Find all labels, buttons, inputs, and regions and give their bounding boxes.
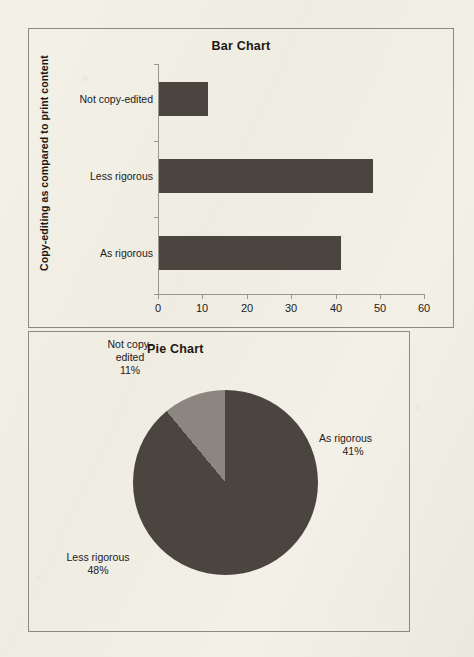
bar-chart-y-axis-title: Copy-editing as compared to print conten…: [38, 55, 50, 271]
pie-chart-graphic: [133, 390, 318, 575]
pie-label-less-rigorous-name: Less rigorous: [66, 551, 129, 563]
bar-chart-plot-area: Not copy-edited Less rigorous As rigorou…: [158, 64, 425, 294]
bar-chart-title: Bar Chart: [29, 39, 453, 53]
y-axis-tick: [154, 217, 158, 218]
y-axis-tick: [154, 141, 158, 142]
y-axis-tick: [154, 64, 158, 65]
x-axis-tick: [158, 294, 159, 299]
pie-chart-panel: Pie Chart Not copy- edited 11% As rigoro…: [28, 331, 410, 632]
x-axis-tick-label: 20: [227, 302, 267, 314]
pie-label-as-rigorous-percent: 41%: [319, 445, 387, 458]
x-axis-tick: [336, 294, 337, 299]
x-axis-tick-label: 60: [404, 302, 444, 314]
pie-label-not-copy-edited-line2: edited: [91, 351, 169, 364]
x-axis-tick: [424, 294, 425, 299]
x-axis-tick-label: 30: [271, 302, 311, 314]
x-axis-tick: [291, 294, 292, 299]
x-axis-tick-label: 0: [138, 302, 178, 314]
pie-label-less-rigorous-percent: 48%: [43, 564, 153, 577]
pie-label-not-copy-edited-percent: 11%: [91, 364, 169, 377]
x-axis-tick-label: 40: [316, 302, 356, 314]
bar-less-rigorous: [159, 159, 373, 193]
bar-category-label-less-rigorous: Less rigorous: [90, 170, 153, 182]
x-axis-tick: [202, 294, 203, 299]
pie-label-as-rigorous: As rigorous 41%: [319, 432, 415, 458]
pie-label-not-copy-edited-line1: Not copy-: [108, 338, 153, 350]
x-axis-tick: [380, 294, 381, 299]
bar-chart-panel: Bar Chart Copy-editing as compared to pr…: [28, 28, 454, 328]
bar-category-label-not-copy-edited: Not copy-edited: [79, 93, 153, 105]
pie-label-less-rigorous: Less rigorous 48%: [43, 551, 153, 577]
x-axis-tick: [247, 294, 248, 299]
bar-as-rigorous: [159, 236, 341, 270]
x-axis-tick-label: 10: [182, 302, 222, 314]
bar-category-label-as-rigorous: As rigorous: [100, 247, 153, 259]
pie-label-not-copy-edited: Not copy- edited 11%: [91, 338, 169, 377]
x-axis-tick-label: 50: [360, 302, 400, 314]
pie-label-as-rigorous-name: As rigorous: [319, 432, 372, 444]
bar-not-copy-edited: [159, 82, 208, 116]
